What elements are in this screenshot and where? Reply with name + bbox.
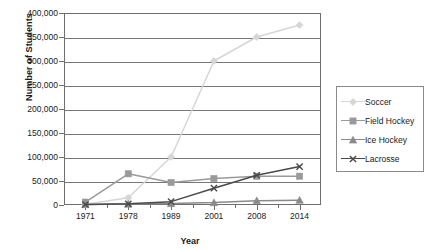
x-axis-tick-label: 1971	[63, 212, 107, 221]
x-axis-tick-mark	[85, 205, 86, 210]
y-axis-tick-label: 300,000	[0, 57, 58, 66]
x-axis-tick-label: 2001	[192, 212, 236, 221]
legend-item-soccer[interactable]: Soccer	[341, 94, 391, 110]
x-axis-tick-label: 2014	[278, 212, 322, 221]
y-axis-tick-label: 350,000	[0, 33, 58, 42]
gridline	[65, 158, 320, 159]
x-axis-tick-label: 1989	[149, 212, 193, 221]
x-axis-tick-mark	[257, 205, 258, 210]
x-axis-minor-tick-mark	[150, 205, 151, 208]
x-axis-minor-tick-mark	[107, 205, 108, 208]
line-chart: Number of Students Year 050,000100,00015…	[0, 0, 430, 250]
x-axis-tick-mark	[300, 205, 301, 210]
y-axis-tick-label: 150,000	[0, 129, 58, 138]
x-axis-minor-tick-mark	[235, 205, 236, 208]
x-axis-tick-label: 1978	[106, 212, 150, 221]
gridline	[65, 110, 320, 111]
legend-item-label: Lacrosse	[365, 155, 400, 164]
y-axis-tick-label: 400,000	[0, 9, 58, 18]
gridline	[65, 134, 320, 135]
legend-item-ice-hockey[interactable]: Ice Hockey	[341, 132, 407, 148]
y-axis-tick-label: 100,000	[0, 153, 58, 162]
cross-marker-icon	[341, 153, 365, 165]
legend-item-field-hockey[interactable]: Field Hockey	[341, 113, 414, 129]
diamond-marker-icon	[341, 96, 365, 108]
legend-item-label: Soccer	[365, 98, 391, 107]
x-axis-tick-mark	[171, 205, 172, 210]
x-axis-tick-mark	[128, 205, 129, 210]
legend-item-label: Ice Hockey	[365, 136, 407, 145]
y-axis-tick-label: 50,000	[0, 177, 58, 186]
x-axis-tick-label: 2008	[235, 212, 279, 221]
x-axis-minor-tick-mark	[193, 205, 194, 208]
y-axis-tick-label: 250,000	[0, 81, 58, 90]
x-axis-minor-tick-mark	[278, 205, 279, 208]
plot-area	[64, 13, 321, 205]
gridline	[65, 86, 320, 87]
y-axis-tick-label: 200,000	[0, 105, 58, 114]
legend-item-label: Field Hockey	[365, 117, 414, 126]
x-axis-title: Year	[60, 236, 320, 246]
x-axis-tick-mark	[214, 205, 215, 210]
triangle-marker-icon	[341, 134, 365, 146]
gridline	[65, 38, 320, 39]
gridline	[65, 182, 320, 183]
y-axis-tick-mark	[59, 205, 64, 206]
gridline	[65, 62, 320, 63]
y-axis-tick-label: 0	[0, 201, 58, 210]
legend-item-lacrosse[interactable]: Lacrosse	[341, 151, 400, 167]
legend: SoccerField HockeyIce HockeyLacrosse	[336, 86, 424, 172]
square-marker-icon	[341, 115, 365, 127]
